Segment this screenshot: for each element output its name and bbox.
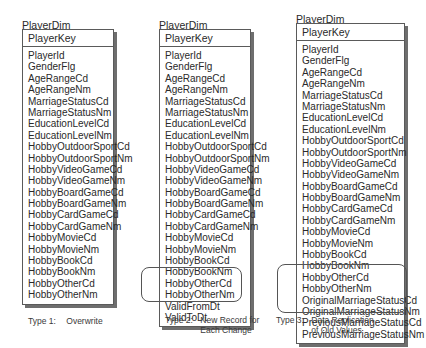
field-row: AgeRangeCd (23, 73, 113, 84)
field-row: HobbyVideoGameCd (23, 164, 113, 175)
caption-type-label: Type 3: (276, 315, 304, 325)
field-row: HobbyMovieNm (23, 244, 113, 255)
field-row: HobbyBoardGameCd (160, 187, 250, 198)
field-row: HobbyVideoGameCd (160, 164, 250, 175)
field-row: HobbyMovieCd (160, 232, 250, 243)
caption-description: Overwrite (66, 316, 102, 326)
field-row: GenderFlg (23, 61, 113, 72)
field-row: AgeRangeNm (160, 84, 250, 95)
field-row: GenderFlg (160, 61, 250, 72)
field-row: PlayerId (297, 44, 404, 55)
field-row: HobbyBoardGameCd (23, 187, 113, 198)
field-row: EducationLevelCd (297, 112, 404, 123)
field-row: AgeRangeCd (297, 67, 404, 78)
field-row: HobbyBoardGameNm (160, 198, 250, 209)
field-row: AgeRangeCd (160, 73, 250, 84)
added-columns-highlight (141, 267, 242, 302)
field-row: HobbyCardGameCd (23, 209, 113, 220)
field-row: EducationLevelNm (297, 124, 404, 135)
field-row: HobbyOutdoorSportNm (160, 153, 250, 164)
caption-type-label: Type 1: (28, 316, 56, 326)
primary-key: PlayerKey (23, 30, 113, 47)
field-row: HobbyCardGameCd (160, 209, 250, 220)
caption-type-label: Type 2: (165, 315, 193, 325)
field-row: HobbyBoardGameCd (297, 181, 404, 192)
field-row: MarriageStatusCd (160, 96, 250, 107)
field-row: HobbyVideoGameCd (297, 158, 404, 169)
field-row: HobbyBoardGameNm (297, 192, 404, 203)
field-row: HobbyCardGameCd (297, 203, 404, 214)
field-row: HobbyCardGameNm (23, 221, 113, 232)
field-row: HobbyOutdoorSportCd (160, 141, 250, 152)
field-row: MarriageStatusNm (297, 101, 404, 112)
field-row: HobbyOutdoorSportCd (23, 141, 113, 152)
field-row: HobbyOutdoorSportNm (297, 147, 404, 158)
field-row: HobbyVideoGameNm (23, 175, 113, 186)
field-row: HobbyVideoGameNm (160, 175, 250, 186)
field-row: HobbyBookNm (23, 266, 113, 277)
field-row: HobbyBookCd (23, 255, 113, 266)
field-row: HobbyMovieNm (297, 238, 404, 249)
field-row: AgeRangeNm (23, 84, 113, 95)
field-row: MarriageStatusNm (23, 107, 113, 118)
added-columns-highlight (277, 264, 407, 313)
field-list: PlayerIdGenderFlgAgeRangeCdAgeRangeNmMar… (23, 47, 113, 304)
caption-type1: Type 1: Overwrite (28, 316, 103, 326)
field-row: HobbyMovieCd (23, 232, 113, 243)
field-row: HobbyOtherCd (23, 278, 113, 289)
field-row: HobbyBoardGameNm (23, 198, 113, 209)
field-row: PlayerId (23, 50, 113, 61)
primary-key: PlayerKey (160, 30, 250, 47)
field-row: PlayerId (160, 50, 250, 61)
field-row: HobbyVideoGameNm (297, 169, 404, 180)
field-row: HobbyOutdoorSportCd (297, 135, 404, 146)
field-row: MarriageStatusNm (160, 107, 250, 118)
caption-type3: Type 3: Data Replication of Old Values (276, 315, 374, 335)
field-row: HobbyCardGameNm (160, 221, 250, 232)
field-row: HobbyCardGameNm (297, 215, 404, 226)
field-row: HobbyOutdoorSportNm (23, 153, 113, 164)
primary-key: PlayerKey (297, 24, 404, 41)
field-row: MarriageStatusCd (23, 96, 113, 107)
entity-box: PlayerKey PlayerIdGenderFlgAgeRangeCdAge… (22, 29, 114, 305)
field-row: HobbyBookCd (297, 249, 404, 260)
field-row: HobbyMovieNm (160, 244, 250, 255)
field-row: HobbyMovieCd (297, 226, 404, 237)
field-row: HobbyOtherNm (23, 289, 113, 300)
caption-description: New Record for Each Change (200, 315, 259, 335)
caption-type2: Type 2: New Record for Each Change (165, 315, 259, 335)
field-row: HobbyBookCd (160, 255, 250, 266)
field-row: EducationLevelNm (160, 130, 250, 141)
field-row: EducationLevelCd (160, 118, 250, 129)
added-field-row: ValidFromDt (160, 301, 250, 312)
caption-description: Data Replication of Old Values (311, 315, 373, 335)
field-row: EducationLevelCd (23, 118, 113, 129)
field-row: EducationLevelNm (23, 130, 113, 141)
field-row: GenderFlg (297, 55, 404, 66)
field-row: MarriageStatusCd (297, 90, 404, 101)
field-row: AgeRangeNm (297, 78, 404, 89)
